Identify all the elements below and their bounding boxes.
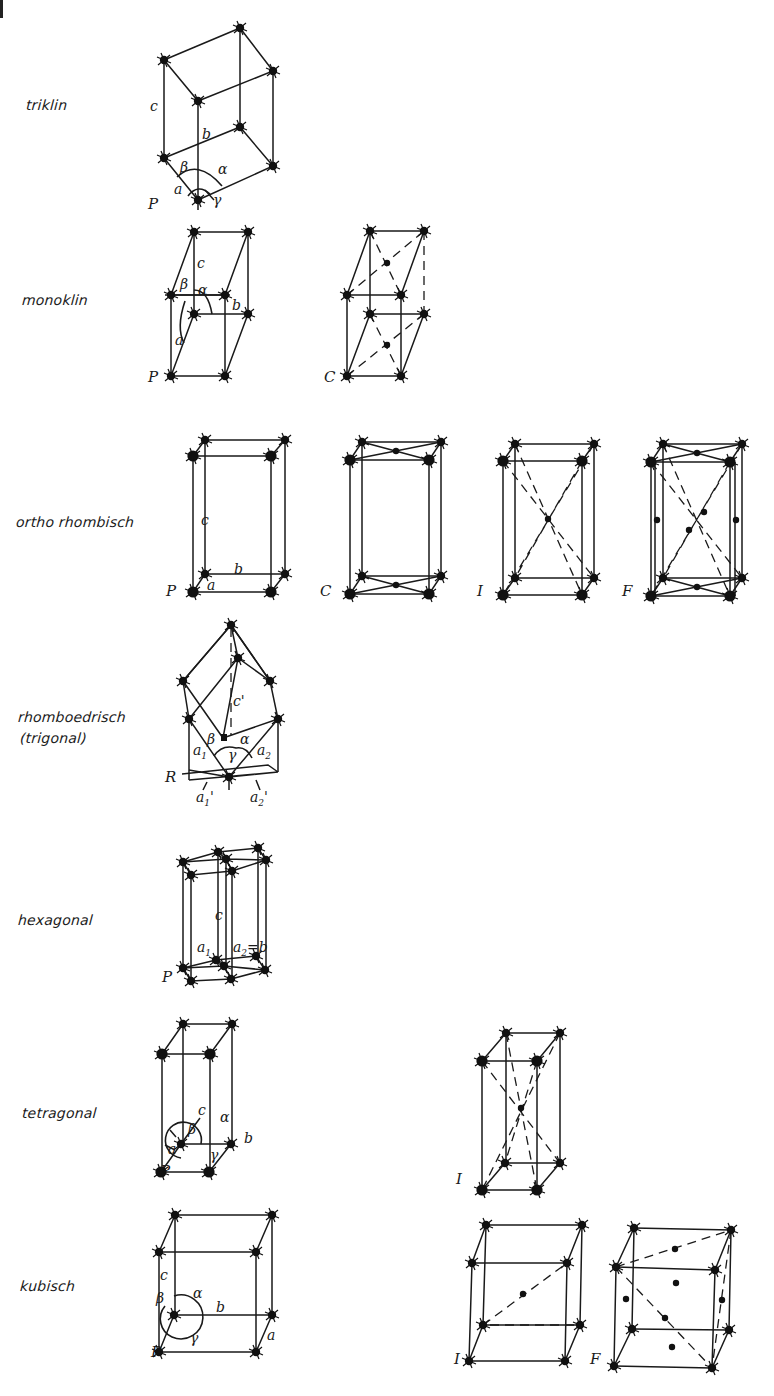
cell-orthorhombic-C: [342, 435, 448, 602]
cell-cubic-I: [462, 1218, 589, 1368]
cell-hexagonal-P: [176, 841, 273, 988]
bravais-lattice-figure: triklin monoklin ortho rhombisch rhomboe…: [0, 0, 774, 1396]
cell-cubic-P: [152, 1208, 279, 1359]
cell-tetragonal-I: [474, 1026, 567, 1198]
cell-monoclinic-P: [164, 225, 255, 383]
lattice-drawings: [0, 0, 774, 1396]
cell-triclinic-P: [157, 21, 280, 210]
cell-monoclinic-C: [340, 224, 431, 383]
cell-cubic-F: [607, 1221, 738, 1375]
cell-orthorhombic-I: [495, 437, 601, 603]
cell-tetragonal-P: [153, 1017, 239, 1180]
cell-orthorhombic-F: [643, 437, 749, 604]
cell-orthorhombic-P: [185, 433, 292, 600]
cell-rhombohedral-R: [176, 618, 285, 790]
